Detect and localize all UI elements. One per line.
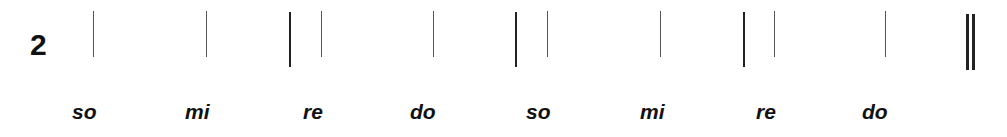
syllable: so: [526, 101, 551, 122]
syllable: mi: [185, 101, 210, 122]
beat-line: [885, 11, 886, 57]
syllable: mi: [640, 101, 665, 122]
measure-barline: [289, 12, 291, 67]
exercise-number: 2: [30, 30, 47, 60]
syllable: do: [862, 101, 888, 122]
beat-line: [660, 11, 661, 57]
syllable: do: [410, 101, 436, 122]
beat-line: [433, 11, 434, 57]
measure-barline: [743, 12, 745, 67]
syllable: re: [303, 101, 323, 122]
syllable: re: [756, 101, 776, 122]
beat-line: [206, 11, 207, 57]
measure-barline: [515, 12, 517, 67]
beat-line: [93, 11, 94, 57]
beat-line: [321, 11, 322, 57]
final-barline: [966, 14, 969, 70]
syllable: so: [72, 101, 97, 122]
beat-line: [774, 11, 775, 57]
beat-line: [547, 11, 548, 57]
final-barline: [972, 14, 975, 70]
